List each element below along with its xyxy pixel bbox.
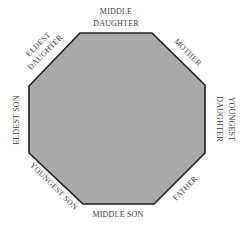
octagon-shape (29, 33, 205, 204)
label-eldest-son: ELDEST SON (12, 95, 21, 145)
family-octagon-diagram: MIDDLE DAUGHTER MOTHER YOUNGEST DAUGHTER… (0, 0, 246, 227)
label-middle-daughter-line1: MIDDLE (100, 7, 132, 16)
label-middle-son: MIDDLE SON (92, 210, 143, 219)
label-middle-daughter-line2: DAUGHTER (93, 19, 139, 28)
label-youngest-daughter-line1: YOUNGEST (227, 97, 236, 142)
label-youngest-daughter-line2: DAUGHTER (215, 96, 224, 142)
